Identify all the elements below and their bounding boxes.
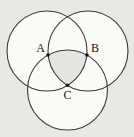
point-c-dot <box>66 84 69 87</box>
point-a-label: A <box>36 41 45 55</box>
point-b-dot <box>85 53 88 56</box>
venn-diagram-figure: A B C <box>0 0 134 137</box>
point-a-dot <box>46 53 49 56</box>
venn-diagram-canvas: A B C <box>0 0 134 137</box>
point-b-label: B <box>91 41 99 55</box>
point-c-label: C <box>63 88 71 102</box>
